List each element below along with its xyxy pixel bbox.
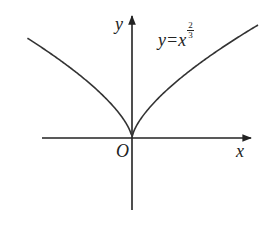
exponent-fraction: 23 bbox=[187, 21, 194, 40]
y-axis-label: y bbox=[115, 15, 123, 33]
function-label-base: y=x bbox=[158, 31, 186, 49]
exponent-denominator: 3 bbox=[187, 31, 194, 40]
origin-label: O bbox=[116, 142, 129, 160]
function-graph bbox=[0, 0, 263, 238]
x-axis-label: x bbox=[236, 142, 244, 160]
curve-x-two-thirds bbox=[27, 25, 258, 136]
function-label: y=x23 bbox=[158, 31, 194, 50]
